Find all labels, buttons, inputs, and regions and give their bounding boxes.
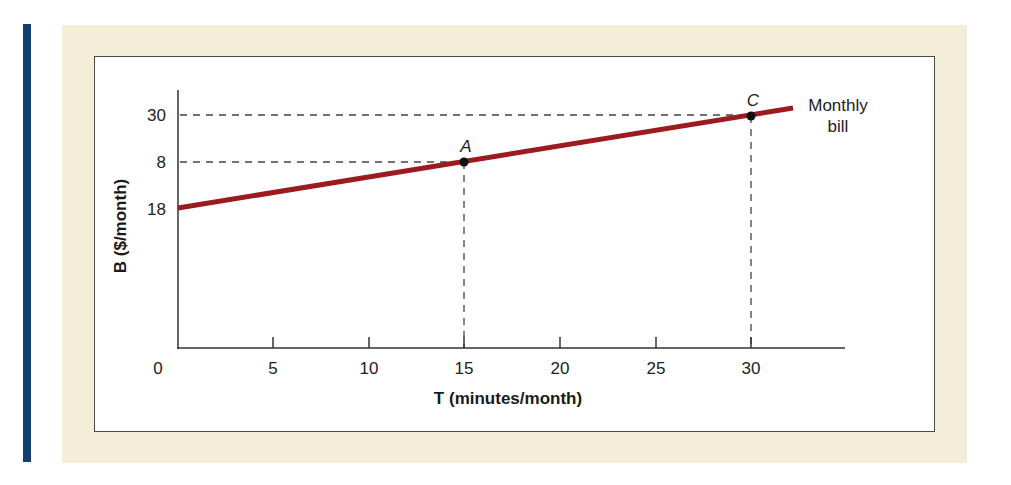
x-tick-label: 20 xyxy=(551,359,570,378)
axes xyxy=(177,90,845,349)
x-tick-label: 25 xyxy=(647,359,666,378)
x-tick-label: 0 xyxy=(153,359,162,378)
point-c-label: C xyxy=(747,91,760,110)
y-tick-label: 8 xyxy=(157,153,166,172)
y-axis-title: B ($/month) xyxy=(111,179,130,273)
x-tick-label: 15 xyxy=(455,359,474,378)
point-a-marker xyxy=(460,158,469,167)
x-axis-title: T (minutes/month) xyxy=(434,389,582,408)
point-c-marker xyxy=(747,112,756,121)
series-label-line1: Monthly xyxy=(808,96,868,115)
series-label-line2: bill xyxy=(828,117,849,136)
monthly-bill-line xyxy=(178,108,793,208)
x-tick-label: 5 xyxy=(268,359,277,378)
y-tick-label: 30 xyxy=(147,106,166,125)
y-tick-label: 18 xyxy=(147,200,166,219)
x-tick-label: 10 xyxy=(360,359,379,378)
chart: A C 30 8 18 0 5 10 15 20 25 30 T (minute… xyxy=(0,0,1011,485)
x-tick-label: 30 xyxy=(742,359,761,378)
point-a-label: A xyxy=(459,137,471,156)
